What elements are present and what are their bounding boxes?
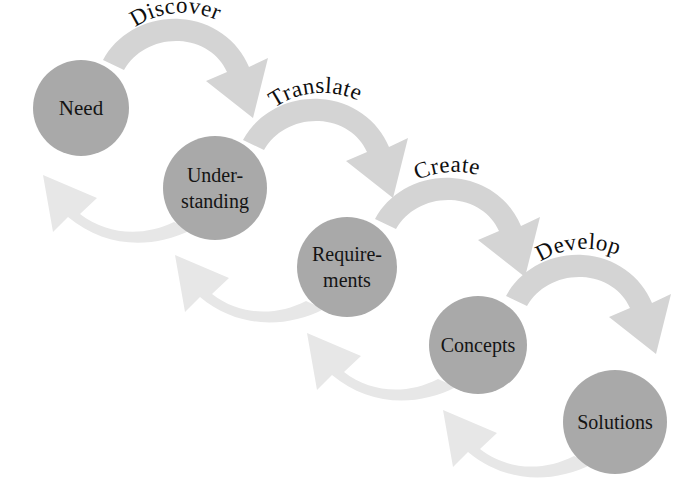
node-label-understanding-line1: Under- <box>187 164 243 186</box>
node-solutions: Solutions <box>563 370 667 474</box>
process-cycle-diagram: Discover Translate Create Develop Need U… <box>0 0 688 492</box>
forward-arrow-create <box>375 178 540 277</box>
node-concepts: Concepts <box>429 296 527 394</box>
node-label-requirements-line1: Require- <box>312 243 382 266</box>
node-label-solutions: Solutions <box>577 411 653 433</box>
node-circle-understanding <box>163 136 267 240</box>
node-label-concepts: Concepts <box>441 334 516 357</box>
node-need: Need <box>33 60 129 156</box>
node-label-understanding-line2: standing <box>181 190 249 213</box>
diagram-canvas: Discover Translate Create Develop Need U… <box>0 0 688 492</box>
node-requirements: Require- ments <box>297 217 397 317</box>
forward-arrow-translate <box>243 99 408 198</box>
node-understanding: Under- standing <box>163 136 267 240</box>
forward-arrow-develop <box>506 255 671 354</box>
node-label-need: Need <box>59 96 104 120</box>
node-label-requirements-line2: ments <box>323 269 371 291</box>
node-circle-requirements <box>297 217 397 317</box>
